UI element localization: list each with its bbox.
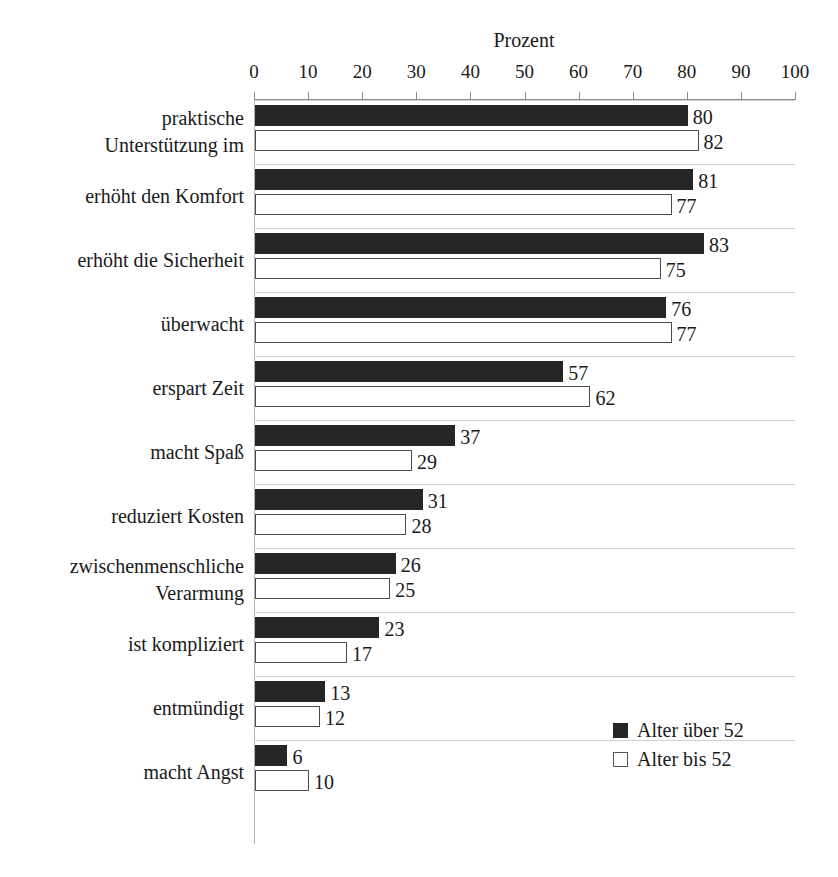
bar-alter-bis-52 [255,258,661,279]
chart-row: reduziert Kosten3128 [0,484,838,548]
bar-alter-bis-52 [255,322,672,343]
category-label: erspart Zeit [0,356,244,420]
row-separator [254,484,795,485]
chart-row: erspart Zeit5762 [0,356,838,420]
bar-value-label: 29 [417,452,437,472]
bar-value-label: 77 [677,196,697,216]
chart-row: erhöht den Komfort8177 [0,164,838,228]
legend-label: Alter über 52 [637,716,744,745]
bar-value-label: 23 [384,619,404,639]
bar-value-label: 82 [704,132,724,152]
chart-row: ist kompliziert2317 [0,612,838,676]
bar-alter-bis-52 [255,194,672,215]
bar-alter-bis-52 [255,578,390,599]
category-label-line: Unterstützung im [105,132,244,159]
chart-row: praktischeUnterstützung im8082 [0,100,838,164]
bar-value-label: 80 [693,107,713,127]
category-label: ist kompliziert [0,612,244,676]
category-label-line: praktische [162,105,244,132]
row-separator [254,612,795,613]
x-tick-label: 100 [765,61,825,83]
legend-item: Alter über 52 [613,716,744,745]
x-tick-label: 10 [278,61,338,83]
category-label-line: erhöht den Komfort [85,183,244,210]
row-separator [254,292,795,293]
x-axis-tick [579,92,580,100]
bar-alter-bis-52 [255,386,590,407]
category-label-line: zwischenmenschliche [70,553,244,580]
x-tick-label: 80 [657,61,717,83]
chart-row: überwacht7677 [0,292,838,356]
x-tick-label: 40 [440,61,500,83]
bar-value-label: 12 [325,708,345,728]
bar-value-label: 62 [595,388,615,408]
x-axis-tick [525,92,526,100]
category-label: überwacht [0,292,244,356]
row-separator [254,100,795,101]
x-axis-tick-labels: 0102030405060708090100 [0,61,838,87]
x-axis-tick [470,92,471,100]
bar-value-label: 75 [666,260,686,280]
x-axis-tick [308,92,309,100]
category-label-line: Verarmung [155,580,244,607]
category-label: macht Angst [0,740,244,804]
bar-alter-ueber-52 [255,233,704,254]
x-tick-label: 30 [386,61,446,83]
chart-row: macht Spaß3729 [0,420,838,484]
category-label-line: entmündigt [153,695,244,722]
bar-alter-ueber-52 [255,681,325,702]
bar-alter-ueber-52 [255,169,693,190]
bar-alter-bis-52 [255,450,412,471]
bar-alter-ueber-52 [255,617,379,638]
bar-value-label: 26 [401,555,421,575]
outlined-square-icon [613,752,628,767]
bar-alter-bis-52 [255,130,699,151]
category-label: praktischeUnterstützung im [0,100,244,164]
category-label: reduziert Kosten [0,484,244,548]
x-tick-label: 70 [603,61,663,83]
category-label: macht Spaß [0,420,244,484]
bar-value-label: 31 [428,491,448,511]
bar-alter-ueber-52 [255,489,423,510]
bar-alter-ueber-52 [255,297,666,318]
bar-alter-ueber-52 [255,361,563,382]
x-tick-label: 60 [549,61,609,83]
legend-label: Alter bis 52 [637,745,731,774]
chart-legend: Alter über 52Alter bis 52 [613,716,744,774]
x-tick-label: 20 [332,61,392,83]
category-label: erhöht den Komfort [0,164,244,228]
bar-value-label: 28 [411,516,431,536]
row-separator [254,228,795,229]
category-label: erhöht die Sicherheit [0,228,244,292]
legend-item: Alter bis 52 [613,745,744,774]
bar-alter-bis-52 [255,770,309,791]
category-label-line: macht Spaß [150,439,244,466]
category-label-line: macht Angst [143,759,244,786]
x-axis-tick [687,92,688,100]
x-axis-tick [254,92,255,100]
category-label-line: überwacht [161,311,244,338]
bar-value-label: 76 [671,299,691,319]
category-label: entmündigt [0,676,244,740]
row-separator [254,164,795,165]
bar-value-label: 25 [395,580,415,600]
x-axis-tick [795,92,796,100]
bar-alter-ueber-52 [255,425,455,446]
x-axis-tick [633,92,634,100]
category-label: zwischenmenschlicheVerarmung [0,548,244,612]
category-label-line: erspart Zeit [152,375,244,402]
x-axis-tick [741,92,742,100]
bar-alter-ueber-52 [255,553,396,574]
bar-alter-bis-52 [255,642,347,663]
category-label-line: ist kompliziert [128,631,244,658]
category-label-line: erhöht die Sicherheit [77,247,244,274]
x-tick-label: 50 [495,61,555,83]
bar-alter-bis-52 [255,514,406,535]
chart-row: erhöht die Sicherheit8375 [0,228,838,292]
bar-alter-ueber-52 [255,745,287,766]
row-separator [254,676,795,677]
row-separator [254,356,795,357]
bar-value-label: 6 [292,747,302,767]
bar-value-label: 17 [352,644,372,664]
bar-value-label: 81 [698,171,718,191]
